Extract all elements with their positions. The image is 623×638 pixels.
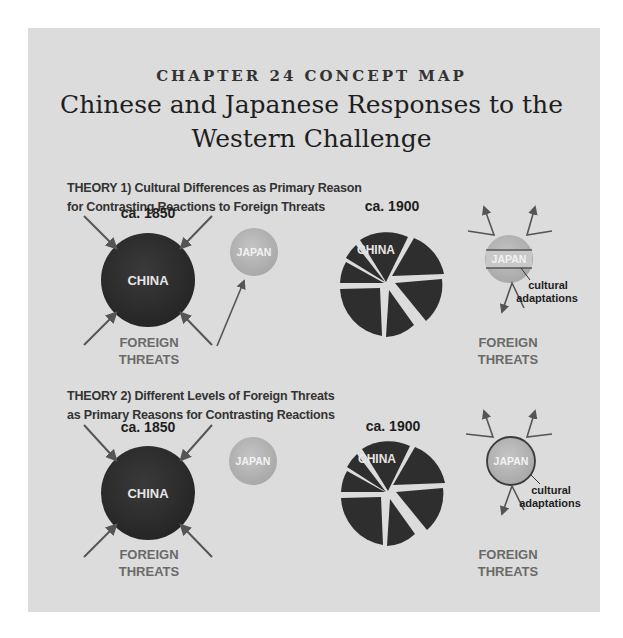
cultural-adaptations-line-1: cultural [528, 279, 568, 291]
date-label: ca. 1850 [121, 419, 176, 435]
foreign-threats-label-line-2: THREATS [119, 352, 180, 367]
date-label: ca. 1850 [121, 205, 176, 221]
china-fragment [340, 288, 382, 336]
foreign-threats-label-line-1: FOREIGN [119, 335, 178, 350]
china-label: CHINA [358, 452, 396, 466]
china-label: CHINA [127, 273, 169, 288]
foreign-threats-label-line-2: THREATS [478, 352, 539, 367]
threat-arrow-icon [217, 281, 244, 346]
adaptations-pointer [531, 475, 540, 484]
threat-arrow-icon [84, 425, 116, 460]
cultural-adaptations-line-2: adaptations [519, 497, 581, 509]
outward-arrow-icon [527, 207, 552, 235]
theory-2-ca-1850: ca. 1850 CHINA JAPAN FOREIGN THREATS [84, 419, 277, 579]
threat-arrow-icon [84, 216, 116, 248]
japan-label: JAPAN [494, 455, 529, 467]
foreign-threats-label-line-2: THREATS [478, 564, 539, 579]
concept-map-diagram: ca. 1850 CHINA JAPAN FOREIGN THREATS ca.… [0, 0, 623, 638]
theory-2-ca-1900: ca. 1900 CHINA JAPAN cultural adaptation… [341, 411, 581, 579]
cultural-adaptations-line-2: adaptations [516, 292, 578, 304]
china-fragment [341, 497, 383, 545]
china-label: CHINA [127, 486, 169, 501]
japan-label: JAPAN [237, 246, 272, 258]
threat-arrow-icon [181, 525, 212, 557]
date-label: ca. 1900 [365, 198, 420, 214]
threat-arrow-icon [181, 425, 212, 460]
outward-arrow-icon [527, 411, 552, 437]
outward-arrow-icon [468, 207, 494, 235]
cultural-adaptations-line-1: cultural [531, 484, 571, 496]
foreign-threats-label-line-1: FOREIGN [119, 547, 178, 562]
theory-1-ca-1900: ca. 1900 CHINA JAPAN cultural adaptation… [340, 198, 578, 367]
threat-arrow-icon [181, 313, 212, 345]
theory-1-ca-1850: ca. 1850 CHINA JAPAN FOREIGN THREATS [84, 205, 278, 367]
date-label: ca. 1900 [366, 418, 421, 434]
foreign-threats-label-line-2: THREATS [119, 564, 180, 579]
threat-arrow-icon [84, 313, 116, 345]
foreign-threats-label-line-1: FOREIGN [478, 547, 537, 562]
threat-arrow-icon [181, 216, 212, 248]
china-label: CHINA [357, 243, 395, 257]
foreign-threats-label-line-1: FOREIGN [478, 335, 537, 350]
outward-arrow-icon [466, 411, 493, 437]
japan-label: JAPAN [492, 253, 527, 265]
threat-arrow-icon [84, 525, 116, 557]
japan-label: JAPAN [236, 455, 271, 467]
